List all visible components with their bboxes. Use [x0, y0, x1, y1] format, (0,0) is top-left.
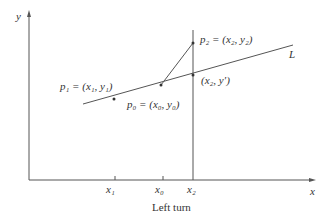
caption: Left turn	[152, 201, 191, 213]
diagram-canvas	[0, 0, 330, 221]
point-proj	[192, 74, 195, 77]
segment-p0-p2	[161, 43, 193, 85]
tick-label-x2: x₂	[187, 183, 196, 195]
line-l	[83, 45, 293, 104]
point-p2	[192, 42, 195, 45]
x-axis-arrow-icon	[309, 178, 316, 182]
p0-label: p₀ = (x₀, y₀)	[127, 98, 180, 110]
y-axis-arrow-icon	[27, 10, 31, 17]
y-axis-label: y	[16, 10, 21, 22]
point-p0	[160, 84, 163, 87]
x-axis-label: x	[310, 185, 315, 197]
proj-label: (x₂, y′)	[201, 74, 230, 86]
point-p1	[113, 98, 116, 101]
tick-label-x0: x₀	[155, 183, 164, 195]
line-l-label: L	[289, 48, 295, 60]
p2-label: p₂ = (x₂, y₂)	[200, 33, 253, 45]
tick-label-x1: x₁	[106, 183, 115, 195]
p1-label: p₁ = (x₁, y₁)	[60, 80, 113, 92]
